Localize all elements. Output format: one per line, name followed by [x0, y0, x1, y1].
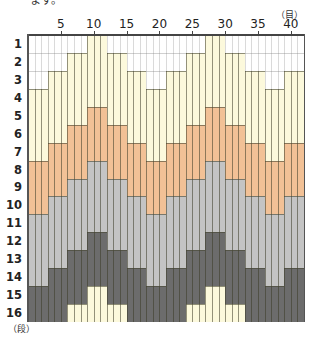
- row-divider: [265, 161, 272, 162]
- row-divider: [61, 71, 68, 72]
- row-divider: [153, 286, 160, 287]
- row-divider: [113, 179, 120, 180]
- row-divider: [245, 143, 252, 144]
- row-divider: [153, 89, 160, 90]
- column-tick: [61, 31, 62, 35]
- row-divider: [186, 125, 193, 126]
- row-divider: [219, 161, 226, 162]
- row-divider: [258, 143, 265, 144]
- row-divider: [107, 53, 114, 54]
- grid-top-border: [28, 34, 305, 36]
- row-divider: [67, 125, 74, 126]
- row-divider: [48, 143, 55, 144]
- knitting-chart-grid: [28, 35, 304, 322]
- row-divider: [127, 53, 134, 54]
- row-divider: [278, 214, 285, 215]
- row-divider: [232, 304, 239, 305]
- column-tick: [94, 31, 95, 35]
- row-divider: [258, 268, 265, 269]
- row-divider: [199, 125, 206, 126]
- row-divider: [159, 214, 166, 215]
- row-divider: [100, 286, 107, 287]
- row-divider: [258, 196, 265, 197]
- row-divider: [140, 71, 147, 72]
- row-divider: [94, 161, 101, 162]
- row-divider: [81, 250, 88, 251]
- row-divider: [41, 286, 48, 287]
- row-label: 1: [2, 37, 22, 51]
- row-divider: [219, 107, 226, 108]
- row-divider: [48, 71, 55, 72]
- row-divider: [179, 71, 186, 72]
- row-label: 5: [2, 109, 22, 123]
- column-tick: [258, 31, 259, 35]
- row-divider: [205, 286, 212, 287]
- row-label: 15: [2, 288, 22, 302]
- row-divider: [153, 214, 160, 215]
- row-divider: [245, 71, 252, 72]
- row-divider: [199, 250, 206, 251]
- row-divider: [159, 89, 166, 90]
- row-divider: [245, 53, 252, 54]
- column-label: 20: [149, 17, 169, 31]
- row-divider: [48, 268, 55, 269]
- row-label: 11: [2, 216, 22, 230]
- row-divider: [113, 250, 120, 251]
- row-divider: [120, 304, 127, 305]
- row-divider: [251, 53, 258, 54]
- row-divider: [48, 196, 55, 197]
- row-label: 8: [2, 163, 22, 177]
- row-label: 13: [2, 252, 22, 266]
- grid-left-border: [27, 34, 29, 322]
- row-label: 10: [2, 198, 22, 212]
- row-divider: [94, 286, 101, 287]
- row-label: 14: [2, 270, 22, 284]
- row-divider: [100, 232, 107, 233]
- row-divider: [81, 125, 88, 126]
- row-divider: [159, 71, 166, 72]
- row-divider: [186, 304, 193, 305]
- row-divider: [113, 304, 120, 305]
- row-divider: [186, 250, 193, 251]
- row-divider: [278, 53, 285, 54]
- row-divider: [35, 89, 42, 90]
- row-divider: [81, 304, 88, 305]
- row-divider: [297, 196, 304, 197]
- row-divider: [173, 268, 180, 269]
- row-divider: [251, 143, 258, 144]
- row-divider: [107, 179, 114, 180]
- row-divider: [120, 125, 127, 126]
- row-divider: [179, 268, 186, 269]
- row-divider: [205, 232, 212, 233]
- row-divider: [35, 71, 42, 72]
- row-divider: [219, 286, 226, 287]
- row-divider: [61, 53, 68, 54]
- row-divider: [186, 53, 193, 54]
- column-label: 35: [248, 17, 268, 31]
- row-divider: [127, 71, 134, 72]
- row-divider: [205, 161, 212, 162]
- row-divider: [127, 196, 134, 197]
- row-label: 7: [2, 145, 22, 159]
- row-divider: [61, 143, 68, 144]
- column-tick: [192, 31, 193, 35]
- row-divider: [35, 161, 42, 162]
- row-divider: [278, 161, 285, 162]
- row-divider: [120, 179, 127, 180]
- row-divider: [297, 53, 304, 54]
- row-divider: [159, 286, 166, 287]
- row-divider: [41, 214, 48, 215]
- row-divider: [159, 53, 166, 54]
- column-label: 25: [182, 17, 202, 31]
- row-unit-label: （段）: [8, 322, 35, 335]
- row-divider: [41, 161, 48, 162]
- row-divider: [173, 71, 180, 72]
- row-divider: [232, 179, 239, 180]
- row-divider: [81, 179, 88, 180]
- row-divider: [245, 268, 252, 269]
- row-divider: [94, 232, 101, 233]
- row-divider: [173, 143, 180, 144]
- row-label: 9: [2, 180, 22, 194]
- row-divider: [232, 125, 239, 126]
- row-label: 16: [2, 306, 22, 320]
